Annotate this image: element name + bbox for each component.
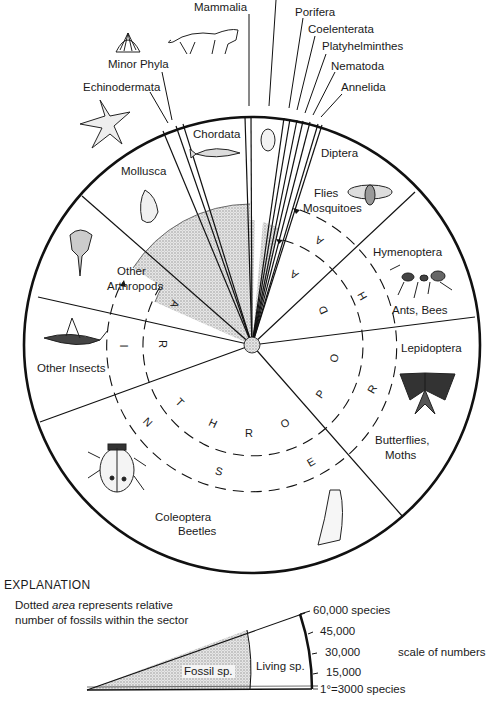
label-platyhelminthes: Platyhelminthes xyxy=(322,40,403,53)
label-chordata: Chordata xyxy=(193,128,240,141)
arc-letter: R xyxy=(245,427,253,439)
arc-letter: I xyxy=(118,344,130,347)
label-moths: Moths xyxy=(385,449,416,462)
fish-icon xyxy=(190,149,240,158)
ladybug-icon xyxy=(88,444,146,492)
scale-tick-60000: 60,000 species xyxy=(313,604,390,616)
label-diptera: Diptera xyxy=(321,147,358,160)
label-ants-bees: Ants, Bees xyxy=(392,304,448,317)
grasshopper-icon xyxy=(44,318,108,345)
label-minor-phyla: Minor Phyla xyxy=(108,58,169,71)
scale-tick-30000: 30,000 xyxy=(325,646,360,658)
center-hub xyxy=(244,337,260,353)
label-mollusca: Mollusca xyxy=(121,165,166,178)
scallop-shell-icon xyxy=(116,33,140,52)
butterfly-icon xyxy=(400,373,455,414)
snail-icon xyxy=(141,190,158,223)
label-beetles: Beetles xyxy=(178,525,216,538)
label-arthropods: Arthropods xyxy=(107,280,163,293)
explanation-description: Dotted area represents relative number o… xyxy=(15,598,188,628)
label-annelida: Annelida xyxy=(341,81,386,94)
label-coleoptera: Coleoptera xyxy=(155,511,211,524)
legend-fossil: Fossil sp. xyxy=(182,665,235,678)
label-echinodermata: Echinodermata xyxy=(83,81,160,94)
cat-icon xyxy=(168,30,238,55)
label-nematoda: Nematoda xyxy=(331,60,384,73)
label-mammalia: Mammalia xyxy=(194,1,247,14)
label-other: Other xyxy=(117,265,146,278)
scale-unit-note: 1°=3000 species xyxy=(320,683,405,695)
scale-tick-15000: 15,000 xyxy=(326,666,361,678)
explanation-title: EXPLANATION xyxy=(4,578,90,592)
label-coelenterata: Coelenterata xyxy=(308,23,374,36)
arc-letter: O xyxy=(327,353,340,364)
legend-living: Living sp. xyxy=(256,660,305,673)
label-butterflies: Butterflies, xyxy=(375,434,429,447)
beetle-icon xyxy=(318,490,343,545)
label-lepidoptera: Lepidoptera xyxy=(401,342,462,355)
scale-tick-45000: 45,000 xyxy=(320,625,355,637)
label-porifera: Porifera xyxy=(295,6,335,19)
label-mosquitoes: Mosquitoes xyxy=(303,202,362,215)
arc-letter: R xyxy=(157,340,169,348)
label-flies: Flies xyxy=(314,187,338,200)
species-diagram: Mammalia Minor Phyla Echinodermata Porif… xyxy=(0,0,488,703)
ant-icon xyxy=(390,265,452,298)
label-other-insects: Other Insects xyxy=(37,362,105,375)
scale-label: scale of numbers xyxy=(398,646,486,658)
label-hymenoptera: Hymenoptera xyxy=(373,246,442,259)
trilobite-icon xyxy=(70,230,92,276)
starfish-icon xyxy=(80,100,130,148)
shell-icon xyxy=(261,129,275,151)
